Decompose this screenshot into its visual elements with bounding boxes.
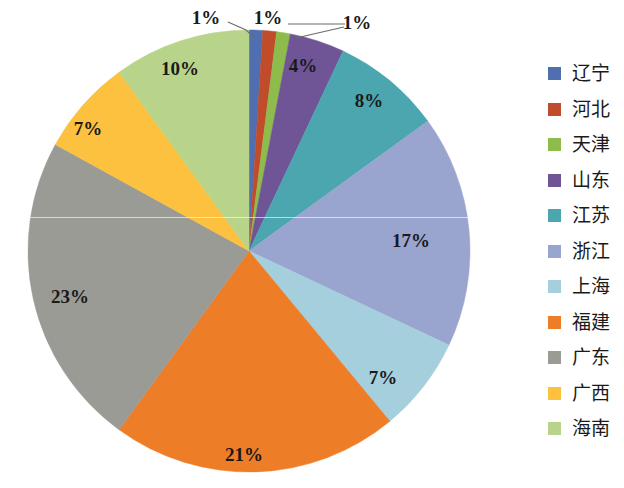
legend-color-swatch: [548, 351, 561, 364]
legend-item[interactable]: 江苏: [548, 198, 624, 234]
legend-item[interactable]: 辽宁: [548, 56, 624, 92]
legend-color-swatch: [548, 67, 561, 80]
legend-item[interactable]: 山东: [548, 163, 624, 199]
leader-line-3: [296, 27, 344, 38]
legend-item-label: 天津: [572, 135, 610, 154]
legend-item-label: 河北: [572, 100, 610, 119]
legend-color-swatch: [548, 316, 561, 329]
legend-color-swatch: [548, 387, 561, 400]
slice-value-label: 8%: [355, 90, 384, 112]
legend-item[interactable]: 海南: [548, 411, 624, 447]
legend-color-swatch: [548, 138, 561, 151]
legend-item[interactable]: 天津: [548, 127, 624, 163]
legend-color-swatch: [548, 103, 561, 116]
slice-value-label: 21%: [225, 444, 263, 466]
slice-value-label: 7%: [369, 367, 398, 389]
pie-chart-svg: [0, 0, 520, 488]
legend-item-label: 山东: [572, 171, 610, 190]
slice-value-label: 4%: [289, 55, 318, 77]
legend-item-label: 海南: [572, 419, 610, 438]
legend-item-label: 江苏: [572, 206, 610, 225]
legend-item-label: 上海: [572, 277, 610, 296]
legend-color-swatch: [548, 422, 561, 435]
legend-item[interactable]: 河北: [548, 92, 624, 128]
pie-chart-area: 1%1%1%4%8%17%7%21%23%7%10%: [0, 0, 520, 488]
legend-item-label: 广东: [572, 348, 610, 367]
slice-value-label: 1%: [192, 7, 221, 29]
legend-color-swatch: [548, 174, 561, 187]
legend-item[interactable]: 广西: [548, 376, 624, 412]
legend-color-swatch: [548, 245, 561, 258]
legend-color-swatch: [548, 280, 561, 293]
legend-item-label: 福建: [572, 313, 610, 332]
slice-value-label: 1%: [343, 12, 372, 34]
legend-color-swatch: [548, 209, 561, 222]
slice-value-label: 10%: [161, 58, 199, 80]
legend-item[interactable]: 浙江: [548, 234, 624, 270]
legend-item[interactable]: 上海: [548, 269, 624, 305]
legend-item-label: 广西: [572, 384, 610, 403]
slice-value-label: 17%: [392, 230, 430, 252]
legend-item[interactable]: 广东: [548, 340, 624, 376]
legend-item[interactable]: 福建: [548, 305, 624, 341]
slice-value-label: 7%: [74, 118, 103, 140]
slice-value-label: 1%: [254, 7, 283, 29]
slice-value-label: 23%: [51, 286, 89, 308]
legend-item-label: 辽宁: [572, 64, 610, 83]
legend-item-label: 浙江: [572, 242, 610, 261]
chart-legend: 辽宁河北天津山东江苏浙江上海福建广东广西海南: [548, 56, 624, 447]
